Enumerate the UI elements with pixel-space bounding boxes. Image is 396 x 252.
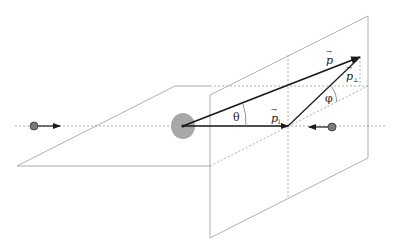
phi-arc — [332, 87, 337, 102]
label-phi: φ — [325, 92, 333, 105]
svg-text:L: L — [278, 118, 282, 125]
svg-text:→: → — [326, 48, 332, 56]
vertical-plane — [210, 16, 368, 238]
svg-text:⊥: ⊥ — [353, 76, 359, 83]
label-p-longitudinal: p L → — [271, 106, 282, 125]
label-theta: θ — [233, 111, 240, 124]
svg-text:→: → — [271, 106, 277, 114]
incoming-particle-right — [309, 123, 336, 131]
svg-text:→: → — [346, 64, 352, 72]
label-p-transverse: p ⊥ → — [346, 64, 359, 83]
theta-arc — [243, 104, 246, 126]
incoming-particle-left — [30, 122, 60, 130]
diagram-canvas: θ φ p → p L → p ⊥ → — [0, 0, 396, 252]
label-p: p → — [326, 48, 333, 67]
